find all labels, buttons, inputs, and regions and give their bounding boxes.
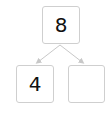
- arrow-left: [38, 45, 60, 62]
- whole-value: 8: [55, 13, 68, 37]
- part-box-right[interactable]: [68, 65, 105, 103]
- whole-box: 8: [42, 6, 80, 44]
- part-value-left: 4: [29, 72, 42, 96]
- part-box-left: 4: [16, 65, 54, 103]
- arrow-right: [60, 45, 82, 62]
